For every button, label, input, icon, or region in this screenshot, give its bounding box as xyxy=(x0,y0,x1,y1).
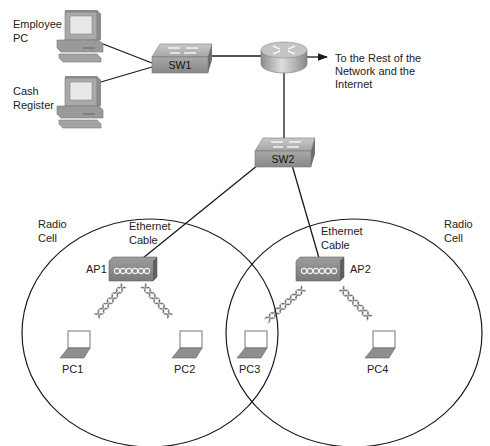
ethernet-cable-right-line2: Cable xyxy=(321,239,350,251)
internet-label-line1: To the Rest of the xyxy=(335,52,421,64)
sw1-switch-icon[interactable]: SW1 xyxy=(152,44,212,73)
cash-register-label-line1: Cash xyxy=(13,85,39,97)
pc4-label: PC4 xyxy=(367,363,388,375)
pc1-label: PC1 xyxy=(62,363,83,375)
radio-cell-left-line2: Cell xyxy=(38,232,57,244)
network-diagram: SW1 SW2 xyxy=(0,0,490,446)
sw2-switch-icon[interactable]: SW2 xyxy=(255,138,315,167)
link-sw2-ap1 xyxy=(143,165,258,258)
ap2-label: AP2 xyxy=(350,263,371,275)
internet-label-line3: Internet xyxy=(335,78,372,90)
wireless-links xyxy=(94,283,373,324)
sw1-label: SW1 xyxy=(169,59,192,71)
ap2-access-point-icon[interactable] xyxy=(296,257,344,281)
cash-register-label-line2: Register xyxy=(13,99,54,111)
pc3-label: PC3 xyxy=(239,363,260,375)
pc4-laptop-icon[interactable] xyxy=(365,331,395,358)
link-cash-register-sw1 xyxy=(94,67,152,84)
internet-label-line2: Network and the xyxy=(335,65,415,77)
radio-cell-left-label: Radio Cell xyxy=(38,218,70,244)
ethernet-cable-left-line1: Ethernet xyxy=(129,220,171,232)
ethernet-cable-left-label: Ethernet Cable xyxy=(129,220,174,246)
ethernet-cable-right-label: Ethernet Cable xyxy=(321,225,366,251)
pc1-laptop-icon[interactable] xyxy=(60,331,90,358)
wireless-coil-ap2-pc4 xyxy=(338,286,372,321)
radio-cell-right-line1: Radio xyxy=(444,218,473,230)
ap1-label: AP1 xyxy=(86,263,107,275)
router-icon[interactable] xyxy=(261,42,307,73)
internet-label: To the Rest of the Network and the Inter… xyxy=(335,52,424,90)
wireless-coil-ap1-pc1 xyxy=(94,283,127,319)
link-sw2-ap2 xyxy=(292,165,319,258)
pc3-laptop-icon[interactable] xyxy=(237,331,267,358)
pc2-laptop-icon[interactable] xyxy=(172,331,202,358)
pc2-label: PC2 xyxy=(174,363,195,375)
radio-cell-left-line1: Radio xyxy=(38,218,67,230)
employee-pc-label-line2: PC xyxy=(13,32,28,44)
cash-register-label: Cash Register xyxy=(13,85,54,111)
sw2-label: SW2 xyxy=(272,153,295,165)
employee-pc-label-line1: Employee xyxy=(13,18,62,30)
ap1-access-point-icon[interactable] xyxy=(109,257,157,281)
cash-register-icon[interactable] xyxy=(57,76,103,128)
wireless-coil-ap2-pc3 xyxy=(264,285,306,323)
radio-cell-right-line2: Cell xyxy=(444,232,463,244)
radio-cell-right-label: Radio Cell xyxy=(444,218,476,244)
link-employee-pc-sw1 xyxy=(98,42,152,63)
wireless-coil-ap1-pc2 xyxy=(140,283,173,319)
ethernet-cable-left-line2: Cable xyxy=(129,234,158,246)
ethernet-cable-right-line1: Ethernet xyxy=(321,225,363,237)
